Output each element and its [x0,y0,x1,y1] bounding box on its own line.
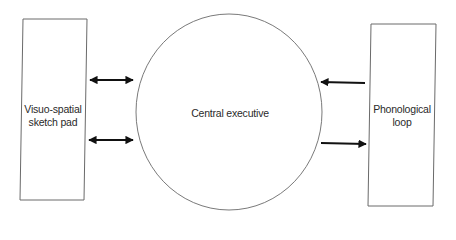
arrow-to-phonological-loop [321,143,366,144]
label-line: loop [366,116,438,129]
phonological-loop-label: Phonological loop [366,103,438,129]
label-line: Phonological [366,103,438,116]
arrow-to-central-executive [321,82,365,83]
visuo-spatial-sketch-pad-label: Visuo-spatial sketch pad [18,103,88,129]
label-line: Central executive [170,107,290,120]
central-executive-label: Central executive [170,107,290,120]
label-line: sketch pad [18,116,88,129]
label-line: Visuo-spatial [18,103,88,116]
